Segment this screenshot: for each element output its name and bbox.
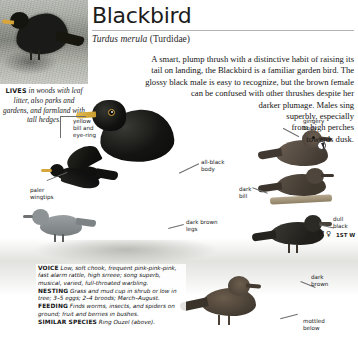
description-line: tail on landing, the Blackbird is a fami…	[98, 65, 354, 76]
juvenile-bill-icon	[23, 215, 33, 218]
description-line: darker plumage. Males sing	[98, 100, 354, 111]
habitat-caption-keyword: LIVES	[5, 87, 26, 95]
photo-bird-leg	[30, 50, 32, 60]
juvenile-leg	[54, 234, 56, 242]
juvenile-head	[32, 209, 49, 225]
fact-label-voice: VOICE	[38, 265, 59, 271]
page-title: Blackbird	[92, 4, 354, 27]
label-dark-bill: dark bill	[239, 186, 252, 200]
female-ground-body	[202, 288, 256, 316]
label-dark-brown-legs: dark brown legs	[186, 219, 218, 233]
illustration-female-perched	[268, 168, 348, 212]
description-line: towards dusk.	[98, 134, 354, 145]
fact-row-feeding: FEEDING Finds worms, insects, and spider…	[38, 303, 184, 318]
label-dull-black: dull black	[333, 216, 348, 230]
label-dark-brown: dark brown	[311, 274, 328, 288]
title-divider	[92, 30, 354, 31]
female-plumage-badge-icon	[317, 141, 326, 150]
page-header: Blackbird Turdus merula (Turdidae)	[92, 4, 354, 44]
juvenile-leg	[62, 234, 64, 242]
label-yellow-bill-and-eye-ring: yellow bill and eye-ring	[73, 118, 96, 140]
leader-line-legs	[168, 224, 184, 229]
description-line: A smart, plump thrush with a distinctive…	[98, 54, 354, 65]
family-name: (Turdidae)	[150, 34, 190, 44]
first-winter-badge: 1ST W	[336, 232, 355, 238]
label-mottled-below: mottled below	[303, 318, 325, 332]
fact-label-similar-species: SIMILAR SPECIES	[38, 319, 97, 325]
ground-shadow-wash	[36, 240, 216, 264]
fact-text-voice: Low, soft chook, frequent pink-pink-pink…	[38, 265, 177, 286]
illustration-female-ground	[186, 272, 274, 328]
label-paler-wingtips: paler wingtips	[30, 187, 53, 201]
scientific-name: Turdus merula (Turdidae)	[92, 34, 354, 44]
flying-bill-icon	[41, 169, 52, 172]
label-gingery-body: gingery body	[303, 118, 324, 132]
description-line: can be confused with other thrushes desp…	[98, 88, 354, 99]
habitat-photo	[0, 0, 88, 84]
fact-row-similar-species: SIMILAR SPECIES Ring Ouzel (above).	[38, 319, 184, 326]
species-binomial: Turdus merula	[92, 34, 147, 44]
leader-line-bill	[60, 116, 61, 138]
label-all-black-body: all-black body	[201, 159, 224, 173]
female-ground-leg	[218, 315, 220, 325]
female-symbol-badge: ♀	[326, 230, 331, 238]
fact-label-feeding: FEEDING	[38, 303, 68, 309]
fact-row-nesting: NESTING Grass and mud cup in shrub or lo…	[38, 288, 184, 303]
first-winter-leg	[296, 244, 298, 253]
leader-line-bill-h	[60, 116, 86, 117]
description-line: glossy black male is easy to recognize, …	[98, 77, 354, 88]
female-perched-bill-icon	[321, 174, 334, 177]
fact-label-nesting: NESTING	[38, 288, 68, 294]
species-facts-block: VOICE Low, soft chook, frequent pink-pin…	[36, 264, 186, 328]
fact-row-voice: VOICE Low, soft chook, frequent pink-pin…	[38, 265, 184, 287]
male-symbol-badge: ♂	[318, 230, 324, 238]
field-guide-page: Blackbird Turdus merula (Turdidae) A sma…	[0, 0, 358, 346]
female-ground-leg	[228, 315, 230, 325]
leader-line-mottled	[280, 314, 298, 319]
photo-bird-leg	[38, 50, 40, 60]
fact-text-similar-species: Ring Ouzel (above).	[99, 319, 155, 325]
illustration-juvenile-grey	[28, 205, 94, 243]
first-winter-leg	[288, 244, 290, 253]
